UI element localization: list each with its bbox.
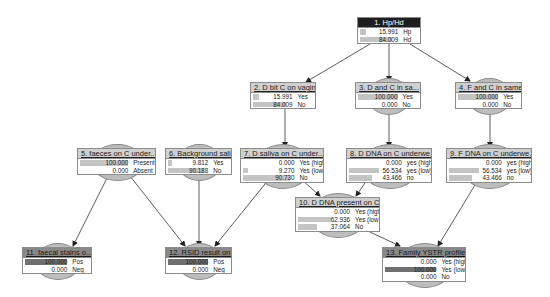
probability-bar: [349, 168, 379, 174]
node-title[interactable]: 6. Background sali...: [166, 149, 231, 159]
node-6[interactable]: 6. Background sali...9.812Yes90.188No: [165, 148, 232, 175]
state-value: 9.812: [192, 159, 208, 167]
state-value: 100.000: [375, 93, 398, 101]
state-value: 37.064: [331, 223, 350, 231]
state-row[interactable]: 90.730No: [241, 174, 323, 182]
state-label: Yes: [213, 159, 223, 167]
node-2[interactable]: 2. D bit C on vagina15.991Yes84.009No: [250, 82, 316, 109]
state-value: 0.000: [482, 101, 498, 109]
node-monitor-box: 6. Background sali...9.812Yes90.188No: [165, 148, 232, 175]
state-label: Neg: [213, 266, 225, 274]
node-monitor-box: 3. D and C in sa...100.000Yes0.000No: [355, 82, 421, 109]
state-value: 100.000: [44, 258, 67, 266]
node-title[interactable]: 10. D DNA present on C ...: [296, 198, 379, 208]
state-row[interactable]: 0.000No: [383, 273, 465, 281]
state-row[interactable]: 15.991Hp: [358, 28, 420, 36]
state-row[interactable]: 0.000Neg: [23, 266, 91, 274]
state-label: no: [407, 174, 414, 182]
state-row[interactable]: 84.009Hd: [358, 36, 420, 44]
node-title[interactable]: 1. Hp/Hd: [358, 18, 420, 28]
state-row[interactable]: 0.000Absent: [78, 167, 155, 175]
node-title[interactable]: 7. D saliva on C under...: [241, 149, 323, 159]
probability-bar: [360, 29, 366, 35]
probability-bar: [253, 94, 259, 100]
state-label: no: [507, 174, 514, 182]
node-4[interactable]: 4. F and C in same...100.000Yes0.000No: [455, 82, 522, 109]
state-value: 0.000: [334, 208, 350, 216]
state-row[interactable]: 15.991Yes: [251, 93, 315, 101]
state-row[interactable]: 9.270Yes (low): [241, 167, 323, 175]
node-10[interactable]: 10. D DNA present on C ...0.000Yes (high…: [295, 197, 380, 232]
state-value: 15.991: [379, 28, 398, 36]
state-value: 0.000: [386, 159, 402, 167]
node-5[interactable]: 5. faeces on C under...100.000Present0.0…: [77, 148, 156, 175]
state-row[interactable]: 56.534yes (low): [447, 167, 531, 175]
node-3[interactable]: 3. D and C in sa...100.000Yes0.000No: [355, 82, 421, 109]
state-label: yes (high): [507, 159, 532, 167]
state-label: No: [503, 101, 511, 109]
node-title[interactable]: 11. faecal stains o...: [23, 248, 91, 258]
state-value: 43.466: [483, 174, 502, 182]
state-row[interactable]: 9.812Yes: [166, 159, 231, 167]
state-row[interactable]: 100.000Pos: [166, 258, 231, 266]
state-row[interactable]: 0.000No: [456, 101, 521, 109]
edge-9-to-13: [438, 180, 478, 246]
node-title[interactable]: 4. F and C in same...: [456, 83, 521, 93]
state-row[interactable]: 90.188No: [166, 167, 231, 175]
node-title[interactable]: 9. F DNA on C underwe...: [447, 149, 531, 159]
state-row[interactable]: 84.009No: [251, 101, 315, 109]
node-8[interactable]: 8. D DNA on C underwe...0.000yes (high)5…: [346, 148, 432, 183]
node-title[interactable]: 8. D DNA on C underwe...: [347, 149, 431, 159]
node-11[interactable]: 11. faecal stains o...100.000Pos0.000Neg: [22, 247, 92, 274]
state-label: Yes (low): [299, 167, 324, 175]
node-title[interactable]: 2. D bit C on vagina: [251, 83, 315, 93]
state-value: 84.009: [273, 101, 292, 109]
state-row[interactable]: 0.000Yes (high): [296, 208, 379, 216]
node-1[interactable]: 1. Hp/Hd15.991Hp84.009Hd: [357, 17, 421, 44]
state-row[interactable]: 100.000Yes (low): [383, 266, 465, 274]
state-row[interactable]: 100.000Present: [78, 159, 155, 167]
node-monitor-box: 5. faeces on C under...100.000Present0.0…: [77, 148, 156, 175]
edge-1-to-4: [410, 44, 470, 81]
state-label: yes (low): [507, 167, 532, 175]
state-row[interactable]: 43.466no: [447, 174, 531, 182]
node-title[interactable]: 5. faeces on C under...: [78, 149, 155, 159]
state-row[interactable]: 0.000Yes (high): [383, 258, 465, 266]
node-title[interactable]: 13. Family YSTR profile: [383, 248, 465, 258]
edge-5-to-12: [130, 176, 185, 246]
probability-bar: [168, 160, 172, 166]
state-label: Yes (high): [355, 208, 380, 216]
node-title[interactable]: 3. D and C in sa...: [356, 83, 420, 93]
node-7[interactable]: 7. D saliva on C under...0.000Yes (high)…: [240, 148, 324, 183]
state-label: No: [403, 101, 411, 109]
node-9[interactable]: 9. F DNA on C underwe...0.000yes (high)5…: [446, 148, 532, 183]
node-monitor-box: 7. D saliva on C under...0.000Yes (high)…: [240, 148, 324, 183]
state-value: 56.534: [483, 167, 502, 175]
state-label: Yes: [503, 93, 513, 101]
state-value: 0.000: [382, 101, 398, 109]
node-title[interactable]: 12. RSID result on...: [166, 248, 231, 258]
state-row[interactable]: 62.936Yes (low): [296, 216, 379, 224]
edge-7-to-12: [215, 179, 269, 246]
state-row[interactable]: 100.000Yes: [356, 93, 420, 101]
state-row[interactable]: 0.000Neg: [166, 266, 231, 274]
state-label: Hp: [403, 28, 411, 36]
state-row[interactable]: 100.000Yes: [456, 93, 521, 101]
state-label: Pos: [72, 258, 83, 266]
state-row[interactable]: 0.000No: [356, 101, 420, 109]
state-row[interactable]: 43.466no: [347, 174, 431, 182]
node-12[interactable]: 12. RSID result on...100.000Pos0.000Neg: [165, 247, 232, 274]
state-label: No: [441, 273, 449, 281]
state-row[interactable]: 37.064No: [296, 223, 379, 231]
state-row[interactable]: 56.534yes (low): [347, 167, 431, 175]
node-13[interactable]: 13. Family YSTR profile0.000Yes (high)10…: [382, 247, 466, 282]
state-value: 56.534: [383, 167, 402, 175]
state-row[interactable]: 0.000yes (high): [447, 159, 531, 167]
state-value: 62.936: [331, 216, 350, 224]
state-value: 0.000: [421, 273, 437, 281]
state-row[interactable]: 0.000yes (high): [347, 159, 431, 167]
state-row[interactable]: 100.000Pos: [23, 258, 91, 266]
state-row[interactable]: 0.000Yes (high): [241, 159, 323, 167]
state-value: 84.009: [379, 36, 398, 44]
state-label: Absent: [133, 167, 153, 175]
